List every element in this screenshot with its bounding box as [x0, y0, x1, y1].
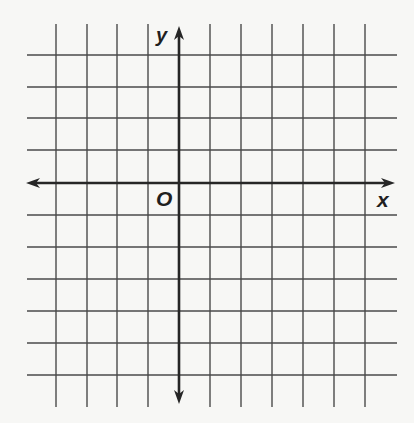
coordinate-plane: y O x: [0, 0, 414, 423]
coordinate-grid: [0, 0, 414, 423]
horizontal-grid-lines: [27, 55, 397, 375]
y-axis-label: y: [156, 25, 167, 45]
origin-label: O: [156, 188, 172, 209]
x-axis-label: x: [377, 189, 389, 210]
